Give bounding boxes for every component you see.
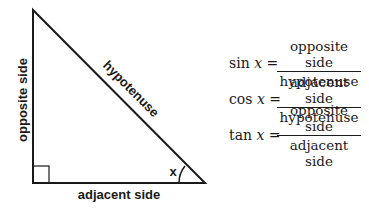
right-triangle-diagram: x opposite side hypotenuse adjacent side [0, 0, 230, 209]
triangle-outline [33, 10, 205, 183]
right-angle-marker [33, 166, 49, 183]
numerator: opposite side [277, 102, 361, 136]
adjacent-side-label: adjacent side [78, 187, 160, 202]
hypotenuse-label: hypotenuse [100, 58, 162, 120]
denominator: adjacent side [277, 136, 361, 169]
numerator: opposite side [277, 38, 361, 72]
tan-formula: tan x = opposite side adjacent side [229, 117, 361, 153]
opposite-side-label: opposite side [15, 58, 30, 142]
angle-label: x [169, 164, 177, 179]
function-name: cos x = [229, 91, 277, 107]
angle-arc [179, 166, 185, 183]
function-name: tan x = [229, 127, 277, 143]
trig-formulas: sin x = opposite side hypotenuse cos x =… [229, 45, 361, 153]
function-name: sin x = [229, 55, 277, 71]
fraction: opposite side adjacent side [277, 102, 361, 169]
